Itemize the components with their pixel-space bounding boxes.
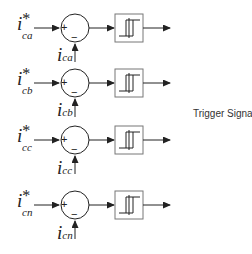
row-n (34, 191, 170, 239)
plus-sign-n: + (61, 199, 67, 210)
reference-sub-c: cc (22, 142, 32, 153)
feedback-label-n: icn (57, 223, 73, 242)
plus-sign-a: + (61, 22, 67, 33)
row-a (34, 14, 170, 62)
diagram-canvas (0, 0, 252, 254)
feedback-label-c: icc (57, 158, 72, 177)
plus-sign-c: + (61, 134, 67, 145)
row-b (34, 69, 170, 117)
reference-sub-a: ca (22, 30, 32, 41)
minus-sign-n: − (71, 209, 77, 220)
reference-sub-n: cn (22, 207, 32, 218)
minus-sign-b: − (71, 87, 77, 98)
feedback-label-b: icb (57, 100, 73, 119)
reference-sub-b: cb (22, 85, 32, 96)
minus-sign-c: − (71, 144, 77, 155)
minus-sign-a: − (71, 32, 77, 43)
plus-sign-b: + (61, 77, 67, 88)
row-c (34, 126, 170, 174)
feedback-label-a: ica (57, 45, 73, 64)
trigger-signals-label: Trigger Signals (193, 108, 252, 119)
